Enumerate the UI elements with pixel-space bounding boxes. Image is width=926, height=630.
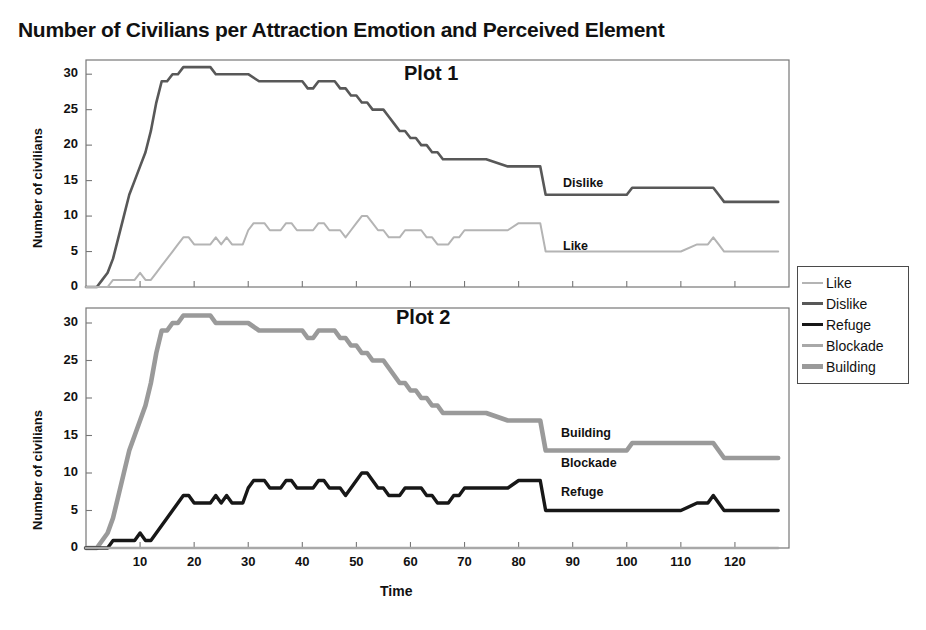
chart-figure: Number of Civilians per Attraction Emoti…	[0, 0, 926, 630]
series-label-blockade: Blockade	[561, 456, 617, 470]
x-tick-label: 40	[282, 554, 322, 569]
plot-frame	[86, 60, 789, 287]
y-tick-label: 0	[40, 539, 78, 554]
y-tick-label: 25	[40, 101, 78, 116]
series-line-building	[86, 316, 778, 549]
x-tick-label: 80	[499, 554, 539, 569]
legend-swatch-icon	[802, 302, 823, 305]
series-line-refuge	[86, 473, 778, 548]
y-tick-label: 10	[40, 464, 78, 479]
x-tick-label: 60	[390, 554, 430, 569]
x-axis-title: Time	[380, 583, 412, 599]
x-tick-label: 70	[445, 554, 485, 569]
plot-1-tag: Plot 1	[404, 62, 458, 85]
legend: LikeDislikeRefugeBlockadeBuilding	[797, 266, 909, 384]
plot-canvas	[0, 0, 926, 630]
legend-item-building[interactable]: Building	[802, 356, 904, 377]
series-label-like: Like	[563, 239, 588, 253]
legend-item-refuge[interactable]: Refuge	[802, 314, 904, 335]
y-tick-label: 10	[40, 207, 78, 222]
y-tick-label: 30	[40, 314, 78, 329]
plot-2-tag: Plot 2	[396, 306, 450, 329]
x-tick-label: 120	[715, 554, 755, 569]
y-tick-label: 20	[40, 136, 78, 151]
series-label-refuge: Refuge	[561, 485, 603, 499]
y-tick-label: 0	[40, 278, 78, 293]
y-tick-label: 5	[40, 243, 78, 258]
legend-label: Dislike	[826, 296, 867, 312]
x-tick-label: 20	[174, 554, 214, 569]
x-tick-label: 10	[120, 554, 160, 569]
y-tick-label: 15	[40, 427, 78, 442]
y-tick-label: 15	[40, 172, 78, 187]
legend-swatch-icon	[802, 323, 823, 326]
legend-item-dislike[interactable]: Dislike	[802, 293, 904, 314]
x-tick-label: 90	[553, 554, 593, 569]
legend-swatch-icon	[802, 344, 823, 346]
x-tick-label: 100	[607, 554, 647, 569]
series-line-dislike	[86, 67, 778, 287]
y-tick-label: 30	[40, 65, 78, 80]
y-tick-label: 25	[40, 352, 78, 367]
plot-frame	[86, 308, 789, 548]
legend-item-like[interactable]: Like	[802, 272, 904, 293]
legend-swatch-icon	[802, 282, 823, 284]
y-tick-label: 20	[40, 389, 78, 404]
x-tick-label: 30	[228, 554, 268, 569]
series-label-dislike: Dislike	[563, 176, 603, 190]
legend-label: Like	[826, 275, 852, 291]
legend-item-blockade[interactable]: Blockade	[802, 335, 904, 356]
legend-label: Refuge	[826, 317, 871, 333]
series-label-building: Building	[561, 426, 611, 440]
series-line-like	[86, 216, 778, 287]
x-tick-label: 50	[336, 554, 376, 569]
x-tick-label: 110	[661, 554, 701, 569]
legend-swatch-icon	[802, 364, 823, 369]
y-tick-label: 5	[40, 502, 78, 517]
legend-label: Blockade	[826, 338, 884, 354]
legend-label: Building	[826, 359, 876, 375]
